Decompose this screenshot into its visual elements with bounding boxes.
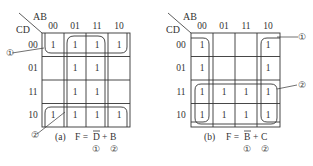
cell: 1 [200, 87, 205, 97]
caption-lhs: F = [75, 132, 88, 142]
row-label: 00 [176, 40, 186, 50]
group-marker-1: ① [298, 32, 306, 42]
col-variable-label: AB [183, 11, 197, 22]
cell: 1 [73, 40, 78, 50]
kmap-a: AB CD 00 01 11 10 00 01 11 10 1 1 1 1 [6, 11, 130, 154]
col-label: 11 [92, 21, 101, 31]
row-label: 00 [28, 40, 38, 50]
cell: 1 [73, 110, 78, 120]
col-label: 10 [114, 21, 124, 31]
cell: 1 [266, 87, 271, 97]
caption-mark1: ① [243, 144, 251, 154]
group-marker-2: ② [298, 80, 306, 90]
caption-term2: B [110, 132, 116, 142]
caption-prefix: (b) [204, 132, 215, 143]
cell: 1 [117, 110, 122, 120]
cell: 1 [222, 87, 227, 97]
caption-term2: C [261, 132, 267, 142]
row-label: 01 [28, 63, 38, 73]
cell: 1 [266, 40, 271, 50]
caption-lhs: F = [226, 132, 239, 142]
cell: 1 [95, 40, 100, 50]
col-label: 00 [48, 21, 58, 31]
caption-prefix: (a) [55, 132, 66, 143]
cell: 1 [222, 110, 227, 120]
caption-a: (a) F = D + B ① ② [55, 131, 118, 154]
col-variable-label: AB [33, 11, 47, 22]
cell: 1 [51, 110, 56, 120]
caption-mark1: ① [92, 144, 100, 154]
cell: 1 [244, 87, 249, 97]
row-label: 10 [176, 110, 186, 120]
cell: 1 [200, 63, 205, 73]
cell: 1 [73, 87, 78, 97]
row-label: 11 [28, 87, 37, 97]
caption-b: (b) F = B + C ① ② [204, 131, 269, 154]
row-label: 11 [176, 87, 185, 97]
caption-mark2: ② [261, 144, 269, 154]
group-marker-2: ② [31, 130, 39, 140]
caption-term1: D [93, 132, 100, 142]
cell: 1 [117, 40, 122, 50]
cell: 1 [200, 110, 205, 120]
karnaugh-maps-figure: AB CD 00 01 11 10 00 01 11 10 1 1 1 1 [0, 0, 313, 166]
row-variable-label: CD [16, 24, 30, 35]
col-label: 01 [70, 21, 80, 31]
row-label: 10 [28, 110, 38, 120]
kmap-b: AB CD 00 01 11 10 00 01 11 10 1 1 1 1 [166, 11, 306, 154]
caption-term1: B [244, 132, 250, 142]
cell: 1 [51, 40, 56, 50]
cell: 1 [73, 63, 78, 73]
group-marker-1: ① [6, 48, 14, 58]
cell: 1 [95, 87, 100, 97]
col-label: 00 [197, 21, 207, 31]
col-label: 01 [219, 21, 229, 31]
cell: 1 [266, 63, 271, 73]
col-label: 10 [263, 21, 273, 31]
cell: 1 [244, 110, 249, 120]
col-label: 11 [241, 21, 250, 31]
caption-plus: + [253, 132, 258, 142]
cell: 1 [266, 110, 271, 120]
row-variable-label: CD [166, 24, 180, 35]
cell: 1 [95, 63, 100, 73]
caption-mark2: ② [110, 144, 118, 154]
cell: 1 [95, 110, 100, 120]
row-label: 01 [176, 63, 186, 73]
caption-plus: + [102, 132, 107, 142]
cell: 1 [200, 40, 205, 50]
